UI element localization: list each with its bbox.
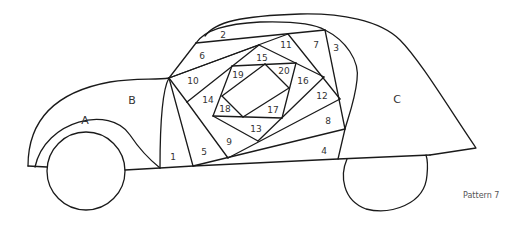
label-13: 13 <box>250 124 261 134</box>
section-a-arch <box>35 119 160 168</box>
label-20: 20 <box>278 66 290 76</box>
label-1: 1 <box>170 152 176 162</box>
label-17: 17 <box>267 105 278 115</box>
label-3: 3 <box>333 43 339 53</box>
label-2: 2 <box>220 30 226 40</box>
label-18: 18 <box>219 104 231 114</box>
car-pattern-diagram: A B C 1 2 3 4 5 6 7 8 9 10 11 12 13 14 1… <box>0 0 526 227</box>
label-12: 12 <box>316 91 327 101</box>
label-19: 19 <box>232 70 244 80</box>
rear-wheel <box>343 155 427 211</box>
section-b-outline <box>28 78 169 166</box>
label-6: 6 <box>199 51 205 61</box>
label-10: 10 <box>187 76 199 86</box>
pillar-left-curve <box>160 78 169 168</box>
label-5: 5 <box>201 147 207 157</box>
label-9: 9 <box>226 137 232 147</box>
front-wheel <box>47 132 125 210</box>
label-11: 11 <box>280 40 291 50</box>
label-7: 7 <box>313 40 319 50</box>
label-15: 15 <box>256 53 267 63</box>
label-b: B <box>128 94 136 107</box>
label-14: 14 <box>202 95 214 105</box>
label-c: C <box>393 93 401 106</box>
pattern-caption: Pattern 7 <box>463 191 499 200</box>
label-a: A <box>81 114 89 127</box>
label-4: 4 <box>321 146 327 156</box>
label-16: 16 <box>297 76 309 86</box>
label-8: 8 <box>325 116 331 126</box>
